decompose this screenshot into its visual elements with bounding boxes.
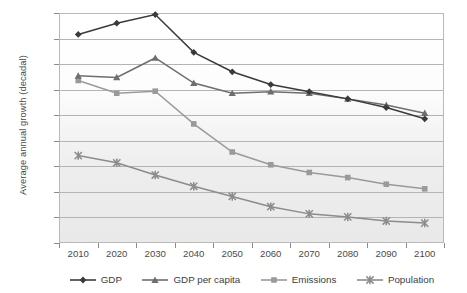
data-point-marker xyxy=(229,68,236,75)
data-point-marker xyxy=(345,175,351,181)
series-line xyxy=(78,80,425,188)
legend-item-gdp[interactable]: GDP xyxy=(69,274,122,286)
series-gdp-per-capita xyxy=(75,54,429,116)
series-line xyxy=(78,156,425,223)
series-population xyxy=(75,151,429,227)
data-point-marker xyxy=(267,81,274,88)
data-point-marker xyxy=(191,121,197,127)
data-point-marker xyxy=(75,31,82,38)
square-marker-icon xyxy=(260,274,288,286)
series-emissions xyxy=(75,78,427,192)
data-point-marker xyxy=(113,20,120,27)
triangle-marker-icon xyxy=(141,274,169,286)
legend-item-emissions[interactable]: Emissions xyxy=(260,274,337,286)
data-point-marker xyxy=(421,115,428,122)
data-point-marker xyxy=(383,181,389,187)
legend-item-label: GDP xyxy=(101,275,122,285)
series-gdp xyxy=(75,11,428,122)
chart-legend: GDPGDP per capitaEmissionsPopulation xyxy=(59,270,444,290)
growth-projection-chart: Average annual growth (decadal) 4.0%3.5%… xyxy=(0,0,467,293)
series-layer xyxy=(0,0,467,293)
data-point-marker xyxy=(229,149,235,155)
legend-item-label: GDP per capita xyxy=(173,275,240,285)
data-point-marker xyxy=(268,162,274,168)
diamond-marker-icon xyxy=(69,274,97,286)
data-point-marker xyxy=(190,79,197,85)
data-point-marker xyxy=(306,170,312,176)
data-point-marker xyxy=(114,90,120,96)
legend-item-label: Emissions xyxy=(292,275,337,285)
data-point-marker xyxy=(152,88,158,94)
data-point-marker xyxy=(152,54,159,60)
legend-item-gdp-per-capita[interactable]: GDP per capita xyxy=(141,274,240,286)
cross-marker-icon xyxy=(356,274,384,286)
legend-item-population[interactable]: Population xyxy=(356,274,434,286)
data-point-marker xyxy=(422,186,428,192)
legend-item-label: Population xyxy=(388,275,434,285)
